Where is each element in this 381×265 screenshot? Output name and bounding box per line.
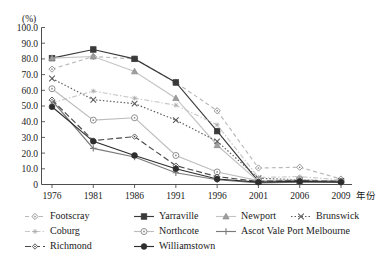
y-tick-label: 70.0 xyxy=(21,70,38,80)
y-tick-label: 100.0 xyxy=(17,23,39,33)
data-point xyxy=(173,117,179,123)
data-point xyxy=(173,152,179,158)
data-point xyxy=(49,104,55,110)
legend-item-coburg[interactable]: Coburg xyxy=(25,225,80,236)
y-tick-label: 60.0 xyxy=(21,86,38,96)
x-tick-label: 1976 xyxy=(43,191,62,201)
x-tick-label: 2009 xyxy=(332,191,351,201)
legend-label: Newport xyxy=(241,210,276,221)
data-point xyxy=(173,80,179,86)
y-tick-label: 30.0 xyxy=(21,133,38,143)
legend-item-brunswick[interactable]: Brunswick xyxy=(291,210,359,221)
series-williamstown xyxy=(49,104,344,185)
data-point xyxy=(132,56,138,62)
data-point xyxy=(132,115,138,121)
legend-label: Brunswick xyxy=(316,210,359,221)
legend-swatch-marker xyxy=(223,228,229,234)
legend-label: Coburg xyxy=(50,225,80,236)
y-tick-label: 90.0 xyxy=(21,39,38,49)
legend-label: Northcote xyxy=(159,225,200,236)
data-point xyxy=(132,96,137,101)
data-point xyxy=(90,97,96,103)
data-point xyxy=(214,128,220,134)
legend-swatch-marker xyxy=(141,214,147,220)
x-tick-label: 1986 xyxy=(125,191,144,201)
y-tick-label: 80.0 xyxy=(21,54,38,64)
x-axis-tick-marks xyxy=(52,185,341,189)
legend-item-yarraville[interactable]: Yarraville xyxy=(134,210,199,221)
data-point xyxy=(338,179,344,185)
legend-label: Footscray xyxy=(50,210,89,221)
y-tick-label: 50.0 xyxy=(21,101,38,111)
data-point xyxy=(297,164,303,170)
y-tick-label: 10.0 xyxy=(21,164,38,174)
data-point xyxy=(49,76,55,82)
x-axis-tick-labels: 19761981198619911996200120062009 xyxy=(43,191,351,201)
y-axis-tick-marks xyxy=(42,28,46,169)
legend-item-richmond[interactable]: Richmond xyxy=(25,240,92,251)
legend-item-williamstown[interactable]: Williamstown xyxy=(134,240,215,251)
data-point xyxy=(297,178,303,184)
data-point xyxy=(255,165,261,171)
y-tick-label: 20.0 xyxy=(21,149,38,159)
legend-label: Richmond xyxy=(50,240,92,251)
data-point xyxy=(173,95,179,101)
data-point xyxy=(173,103,178,108)
legend-label: Yarraville xyxy=(159,210,199,221)
data-point xyxy=(91,89,96,94)
y-tick-label: 40.0 xyxy=(21,117,38,127)
x-tick-label: 2001 xyxy=(249,191,268,201)
legend-swatch-marker xyxy=(141,229,147,235)
legend-swatch-marker xyxy=(141,244,147,250)
legend-label: Ascot Vale Port Melbourne xyxy=(241,225,351,236)
legend-item-footscray[interactable]: Footscray xyxy=(25,210,89,221)
data-point xyxy=(132,101,138,107)
chart-legend: FootscrayYarravilleNewportBrunswickCobur… xyxy=(25,210,359,251)
y-tick-label: 0 xyxy=(33,180,38,190)
x-tick-label: 1981 xyxy=(84,191,103,201)
x-tick-label: 1991 xyxy=(166,191,185,201)
legend-swatch-marker xyxy=(32,244,37,249)
chart-container: (%) 010.020.030.040.050.060.070.080.090.… xyxy=(0,0,381,265)
legend-swatch-marker xyxy=(32,213,38,219)
legend-item-ascot-vale-port-melbourne[interactable]: Ascot Vale Port Melbourne xyxy=(216,225,351,236)
data-point xyxy=(214,176,220,182)
x-tick-label: 2006 xyxy=(290,191,309,201)
data-point xyxy=(215,122,220,127)
legend-item-newport[interactable]: Newport xyxy=(216,210,276,221)
data-point xyxy=(49,86,55,92)
legend-label: Williamstown xyxy=(159,240,215,251)
x-axis-title: 年份 xyxy=(356,190,376,201)
data-point xyxy=(256,179,262,185)
y-axis-tick-labels: 010.020.030.040.050.060.070.080.090.0100… xyxy=(17,23,39,190)
data-point xyxy=(49,66,55,72)
data-point xyxy=(132,153,138,159)
x-tick-label: 1996 xyxy=(208,191,227,201)
legend-item-northcote[interactable]: Northcote xyxy=(134,225,200,236)
data-point xyxy=(90,117,96,123)
data-point xyxy=(90,47,96,53)
legend-swatch-marker xyxy=(33,229,38,234)
line-chart: (%) 010.020.030.040.050.060.070.080.090.… xyxy=(0,0,381,265)
data-point xyxy=(173,166,179,172)
data-series-layer xyxy=(49,47,344,186)
data-point xyxy=(90,138,96,144)
